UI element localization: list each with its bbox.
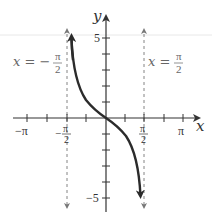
svg-text:x = −: x = − [13,54,50,69]
x-tick-half-pi: π 2 [139,123,148,145]
x-axis-label: x [196,117,205,135]
y-tick-5: 5 [94,31,100,45]
svg-text:2: 2 [55,63,61,75]
x-tick-neg-pi: −π [15,124,28,138]
asymptote-left-label: x = − π 2 [13,50,62,75]
svg-text:π: π [55,50,61,62]
asymptote-right-label: x = π 2 [148,50,183,75]
svg-text:2: 2 [176,63,182,75]
curve-top-arrow [72,36,74,60]
svg-text:2: 2 [64,134,69,145]
y-tick-neg5: −5 [86,191,99,205]
svg-text:x =: x = [148,54,170,69]
svg-text:−: − [55,127,61,139]
x-tick-neg-half-pi: − π 2 [55,123,71,145]
svg-text:π: π [63,123,68,134]
x-tick-pi: π [178,124,184,138]
svg-text:π: π [176,50,182,62]
svg-text:2: 2 [141,134,146,145]
svg-text:π: π [140,123,145,134]
y-axis-label: y [92,7,102,25]
tangent-graph: x y 5 −5 −π − π 2 π 2 π x = − π 2 x = π … [0,0,212,214]
